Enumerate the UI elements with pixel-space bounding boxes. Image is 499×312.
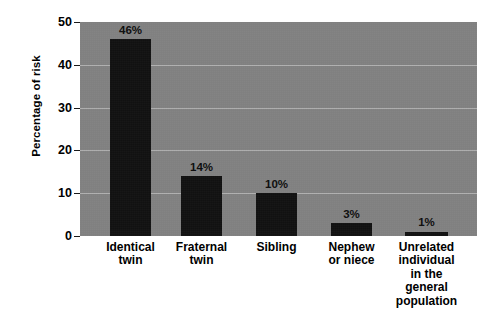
x-label-line: general [382,281,471,294]
bar-unrelated [405,232,448,236]
x-label-unrelated-individual: Unrelated individual in the general popu… [382,241,471,308]
y-tick-label: 40 [44,59,72,72]
bar-value-label: 1% [396,217,457,229]
bar-value-label: 14% [171,162,232,174]
y-tick-label: 10 [44,187,72,200]
y-tick-label: 30 [44,102,72,115]
bar-sibling [256,193,297,236]
bar-value-label: 3% [321,209,382,221]
bar-value-label: 10% [246,179,307,191]
bar-identical-twin [110,39,151,236]
y-tick-mark [74,236,80,237]
plot-area: 46% 14% 10% 3% 1% [80,22,477,236]
x-label-line: in the [382,268,471,281]
y-tick-label: 50 [44,16,72,29]
x-label-line: population [382,295,471,308]
x-label-line: twin [157,254,246,267]
bar-value-label: 46% [100,25,161,37]
x-label-line: individual [382,254,471,267]
y-axis-tick-labels: 50 40 30 20 10 0 [40,0,72,312]
bar-fraternal-twin [181,176,222,236]
bar-chart: Percentage of risk 50 40 30 20 10 0 46% … [0,0,499,312]
x-label-line: Unrelated [382,241,471,254]
bar-nephew-or-niece [331,223,372,236]
x-axis-category-labels: Identical twin Fraternal twin Sibling Ne… [80,241,477,312]
y-tick-label: 0 [44,230,72,243]
y-tick-label: 20 [44,144,72,157]
